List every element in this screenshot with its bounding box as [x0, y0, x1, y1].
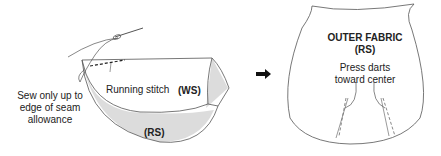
- right-arrow-icon: [256, 69, 271, 79]
- outer-fabric-label: OUTER FABRIC: [320, 32, 410, 44]
- left-dart: [336, 82, 356, 138]
- running-stitch-label: Running stitch: [106, 84, 169, 96]
- press-darts-note: Press darts toward center: [320, 62, 410, 86]
- sew-note-line-3: allowance: [14, 114, 86, 126]
- outer-fabric-title: OUTER FABRIC (RS): [320, 32, 410, 56]
- right-dart: [374, 82, 395, 136]
- press-darts-line-1: Press darts: [320, 62, 410, 74]
- needle-icon: [68, 28, 143, 82]
- sew-note-line-2: edge of seam: [14, 102, 86, 114]
- rs-label-right: (RS): [320, 44, 410, 56]
- sew-note-line-1: Sew only up to: [14, 90, 86, 102]
- running-stitch-line: [90, 60, 125, 66]
- ws-label: (WS): [178, 85, 201, 97]
- rs-label-left: (RS): [144, 127, 165, 139]
- sew-only-note: Sew only up to edge of seam allowance: [14, 90, 86, 126]
- press-darts-line-2: toward center: [320, 74, 410, 86]
